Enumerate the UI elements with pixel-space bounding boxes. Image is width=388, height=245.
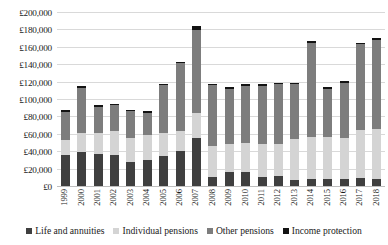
y-axis-tick-label: £100,000 [19,96,52,105]
x-axis-tick-label: 2003 [126,189,135,206]
bar-segment [110,155,119,187]
bar-segment [176,151,185,187]
bar-column[interactable] [241,84,250,187]
y-axis-tick-label: £0 [43,183,52,192]
bar-segment [77,133,86,152]
bar-segment [176,63,185,131]
bar-column[interactable] [126,110,135,187]
bar-segment [110,131,119,154]
bar-segment [143,160,152,187]
bar-column[interactable] [110,104,119,188]
chart-legend: Life and annuitiesIndividual pensionsOth… [0,225,388,236]
bar-column[interactable] [290,83,299,187]
x-axis-tick-label: 2005 [159,189,168,206]
y-axis-tick-label: £140,000 [19,61,52,70]
y-axis-tick-label: £160,000 [19,43,52,52]
bar-segment [323,89,332,138]
legend-swatch-icon [283,228,289,234]
bar-column[interactable] [192,26,201,187]
bar-column[interactable] [225,87,234,187]
legend-item[interactable]: Individual pensions [113,225,197,236]
y-axis-labels: £0£20,000£40,000£60,000£80,000£100,000£1… [0,13,55,187]
y-axis-tick-label: £20,000 [24,165,52,174]
bar-segment [159,85,168,133]
y-axis-tick-label: £60,000 [24,130,52,139]
bar-segment [61,140,70,155]
y-axis-tick-label: £180,000 [19,26,52,35]
x-axis-tick-label: 2014 [306,189,315,206]
x-axis-tick-label: 2000 [77,189,86,206]
bar-segment [126,111,135,138]
bar-segment [225,172,234,187]
x-axis-tick-label: 2008 [208,189,217,206]
bar-segment [77,88,86,133]
bar-column[interactable] [274,83,283,187]
x-axis-labels: 1999200020012002200320042005200620072008… [57,189,385,219]
bar-segment [372,129,381,179]
legend-item[interactable]: Income protection [283,225,362,236]
bar-segment [208,146,217,177]
bar-segment [61,155,70,187]
x-axis-tick-label: 2017 [355,189,364,206]
bar-segment [61,112,70,140]
x-axis-tick-label: 2018 [372,189,381,206]
legend-item[interactable]: Life and annuities [26,225,104,236]
bar-segment [208,85,217,146]
x-axis-tick-label: 2002 [109,189,118,206]
clipped-header-remnant [0,0,388,5]
bar-segment [340,138,349,179]
y-axis-tick-label: £200,000 [19,9,52,18]
x-axis-tick-label: 2016 [339,189,348,206]
x-axis-tick-label: 2015 [323,189,332,206]
bar-segment [241,172,250,187]
bar-segment [274,84,283,144]
bar-segment [258,86,267,144]
bar-column[interactable] [77,86,86,187]
x-axis-baseline [57,186,385,187]
bar-segment [290,84,299,139]
bar-column[interactable] [340,81,349,187]
bar-segment [192,113,201,138]
bar-segment [192,30,201,114]
legend-label: Income protection [292,225,362,236]
legend-label: Other pensions [216,225,274,236]
bar-segment [225,144,234,173]
x-axis-tick-label: 2007 [191,189,200,206]
bar-segment [274,144,283,175]
bar-segment [159,133,168,156]
bar-column[interactable] [208,84,217,188]
y-axis-tick-label: £40,000 [24,148,52,157]
legend-label: Individual pensions [122,225,197,236]
bar-segment [241,143,250,173]
bar-column[interactable] [176,62,185,187]
x-axis-tick-label: 2012 [273,189,282,206]
x-axis-tick-label: 2009 [224,189,233,206]
x-axis-tick-label: 1999 [60,189,69,206]
bar-segment [258,144,267,176]
bar-segment [126,138,135,161]
x-axis-tick-label: 2004 [142,189,151,206]
bar-segment [126,162,135,187]
bar-segment [192,138,201,187]
x-axis-tick-label: 2001 [93,189,102,206]
bar-column[interactable] [94,105,103,187]
legend-item[interactable]: Other pensions [207,225,274,236]
bar-column[interactable] [61,110,70,187]
bar-segment [356,130,365,178]
legend-label: Life and annuities [35,225,104,236]
bar-column[interactable] [143,111,152,187]
bar-segment [290,139,299,180]
x-axis-tick-label: 2011 [257,189,266,205]
bar-column[interactable] [356,43,365,187]
bar-segment [307,43,316,136]
bar-column[interactable] [323,87,332,187]
bar-segment [340,83,349,139]
bar-column[interactable] [258,84,267,187]
plot-area [57,13,385,187]
bar-column[interactable] [307,41,316,187]
y-axis-tick-label: £120,000 [19,78,52,87]
bar-column[interactable] [159,84,168,188]
bar-column[interactable] [372,38,381,187]
bar-segment [143,135,152,160]
bar-segment [307,137,316,180]
